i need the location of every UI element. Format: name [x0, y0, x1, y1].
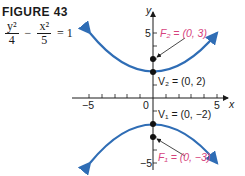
vertex-v2-point — [150, 69, 156, 75]
f1-label: F₁ = (0, −3) — [158, 151, 210, 163]
tick-zero: 0 — [143, 99, 149, 111]
y-axis-label: y — [145, 4, 152, 16]
f2-label: F₂ = (0, 3) — [160, 27, 207, 39]
focus-f2-point — [150, 56, 156, 62]
hyperbola-plot: y x −5 0 5 5 −5 F₂ = (0, 3) V₂ = (0, 2) … — [0, 0, 245, 176]
y-tick-5: 5 — [145, 27, 151, 39]
vertex-v1-point — [150, 121, 156, 127]
x-axis-label: x — [228, 98, 235, 110]
x-tick-neg5: −5 — [82, 99, 94, 111]
y-tick-neg5: −5 — [140, 157, 152, 169]
x-tick-5: 5 — [214, 99, 220, 111]
v2-label: V₂ = (0, 2) — [158, 75, 206, 87]
v1-label: V₁ = (0, −2) — [158, 108, 211, 120]
focus-f1-point — [150, 134, 156, 140]
f2-leader-arrow — [157, 38, 185, 57]
